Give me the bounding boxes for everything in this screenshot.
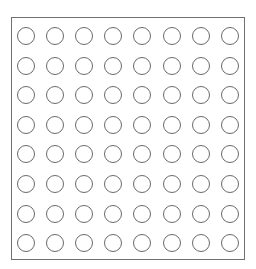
grid-frame [11,17,245,260]
circle-cell [104,205,122,223]
circle-cell [17,116,35,134]
circle-cell [221,145,239,163]
circle-cell [192,116,210,134]
circle-cell [46,116,64,134]
circle-cell [133,145,151,163]
circle-cell [133,116,151,134]
circle-cell [75,234,93,252]
circle-cell [163,175,181,193]
circle-cell [17,175,35,193]
circle-cell [221,175,239,193]
circle-cell [104,116,122,134]
circle-cell [192,57,210,75]
circle-cell [192,205,210,223]
circle-cell [221,27,239,45]
circle-cell [133,175,151,193]
circle-cell [192,86,210,104]
circle-cell [221,205,239,223]
circle-cell [163,234,181,252]
circle-cell [104,57,122,75]
circle-cell [17,205,35,223]
circle-cell [46,57,64,75]
circle-cell [17,145,35,163]
circle-cell [163,57,181,75]
circle-cell [46,234,64,252]
circle-cell [221,86,239,104]
circle-cell [221,57,239,75]
circle-cell [75,86,93,104]
circle-cell [104,145,122,163]
circle-cell [75,116,93,134]
circle-cell [75,145,93,163]
circle-cell [104,27,122,45]
circle-cell [75,27,93,45]
circle-cell [133,57,151,75]
circle-cell [221,116,239,134]
circle-cell [192,145,210,163]
circle-cell [75,57,93,75]
circle-cell [17,86,35,104]
circle-cell [133,27,151,45]
circle-cell [163,86,181,104]
circle-cell [104,234,122,252]
circle-cell [192,27,210,45]
circle-cell [104,175,122,193]
circle-cell [163,27,181,45]
circle-cell [46,205,64,223]
circle-cell [75,205,93,223]
circle-cell [17,57,35,75]
circle-cell [192,175,210,193]
circle-cell [46,175,64,193]
circle-cell [133,234,151,252]
circle-cell [104,86,122,104]
circle-cell [163,205,181,223]
circle-cell [133,205,151,223]
circle-cell [133,86,151,104]
circle-cell [221,234,239,252]
circle-cell [46,27,64,45]
circle-cell [46,145,64,163]
circle-cell [192,234,210,252]
circle-cell [163,145,181,163]
circle-cell [75,175,93,193]
circle-cell [163,116,181,134]
circle-cell [46,86,64,104]
circle-cell [17,27,35,45]
circle-cell [17,234,35,252]
